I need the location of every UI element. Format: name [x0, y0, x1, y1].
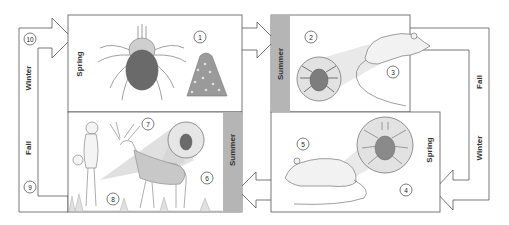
svg-text:6: 6 — [205, 175, 209, 182]
svg-text:3: 3 — [391, 69, 395, 76]
season-label-tr: Summer — [276, 48, 285, 80]
adult-tick-on-deer — [180, 134, 192, 150]
callout-8: 8 — [107, 193, 119, 205]
svg-text:7: 7 — [146, 121, 150, 128]
loop-label-left-winter: Winter — [24, 66, 33, 91]
center-bottom-arrow — [238, 172, 271, 208]
season-label-br: Spring — [425, 137, 434, 162]
loop-label-right-fall: Fall — [475, 75, 484, 89]
callout-2: 2 — [305, 31, 317, 43]
season-label-tl: Spring — [75, 51, 84, 76]
callout-10: 10 — [24, 33, 36, 45]
callout-3: 3 — [387, 66, 399, 78]
loop-label-right-winter: Winter — [475, 136, 484, 161]
larva-tick-body — [310, 69, 328, 91]
tick-life-cycle-diagram: Spring Summer Summer Spring Winter Fall … — [0, 0, 509, 225]
center-top-arrow — [242, 22, 275, 58]
callout-9: 9 — [24, 181, 36, 193]
callout-7: 7 — [142, 118, 154, 130]
callout-4: 4 — [400, 184, 412, 196]
season-label-bl: Summer — [228, 134, 237, 166]
svg-text:2: 2 — [309, 34, 313, 41]
nymph-tick-body — [375, 136, 395, 160]
loop-label-left-fall: Fall — [24, 141, 33, 155]
svg-text:9: 9 — [28, 184, 32, 191]
callout-5: 5 — [297, 138, 309, 150]
adult-tick-body — [126, 50, 158, 90]
svg-text:4: 4 — [404, 187, 408, 194]
svg-text:8: 8 — [111, 196, 115, 203]
callout-6: 6 — [201, 172, 213, 184]
svg-text:5: 5 — [301, 141, 305, 148]
svg-text:1: 1 — [198, 34, 202, 41]
callout-1: 1 — [194, 31, 206, 43]
svg-text:10: 10 — [26, 36, 34, 43]
